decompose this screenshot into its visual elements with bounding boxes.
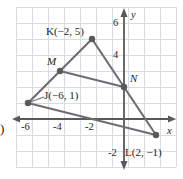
point-m xyxy=(57,68,63,74)
y-tick-label-4: 4 xyxy=(113,50,118,61)
y-tick-label-neg2: -2 xyxy=(108,148,117,159)
y-axis-arrow-down xyxy=(121,161,128,170)
point-label-m: M xyxy=(47,56,56,67)
point-n xyxy=(121,84,127,90)
point-label-l: L(2, −1) xyxy=(125,147,162,158)
x-axis-arrow-right xyxy=(168,116,176,123)
point-l xyxy=(153,132,159,138)
x-axis-label: x xyxy=(167,126,172,137)
point-j xyxy=(25,100,31,106)
x-tick-label-neg4: -4 xyxy=(53,122,62,133)
grid-lines xyxy=(16,7,176,167)
point-label-j: J(−6, 1) xyxy=(44,90,78,101)
point-label-n: N xyxy=(130,73,137,84)
coordinate-plane-figure: K(−2, 5) J(−6, 1) L(2, −1) M N -6 -4 -2 … xyxy=(0,0,183,179)
point-label-k: K(−2, 5) xyxy=(46,26,84,37)
x-tick-label-neg6: -6 xyxy=(21,122,30,133)
point-k xyxy=(89,36,95,42)
answer-choice-marker: ) xyxy=(0,122,4,135)
y-tick-label-6: 6 xyxy=(113,18,118,29)
x-tick-label-neg2: -2 xyxy=(85,122,94,133)
y-axis-label: y xyxy=(131,10,136,21)
y-axis-arrow-up xyxy=(121,8,128,17)
